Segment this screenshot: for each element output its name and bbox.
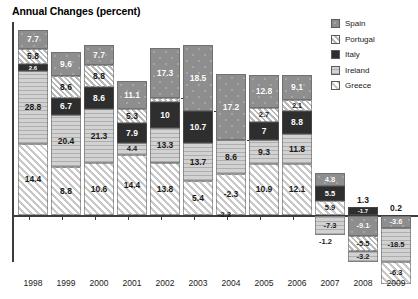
bar-segment-italy[interactable]: 2.6	[18, 64, 48, 71]
bar-segment-ireland[interactable]: 8.6	[216, 140, 246, 174]
bar-segment-portugal[interactable]: 8.6	[51, 76, 81, 98]
bar-segment-spain[interactable]: 9.1	[282, 75, 312, 100]
bar-segment-portugal-neg[interactable]: -5.5	[348, 236, 378, 251]
bar-segment-portugal[interactable]: 2.1	[282, 100, 312, 111]
bar-segment-ireland[interactable]: 21.3	[84, 109, 114, 163]
bar-segment-ireland[interactable]: 20.4	[51, 115, 81, 167]
bar-segment-italy[interactable]: 10.7	[183, 111, 213, 143]
bar-segment-spain[interactable]: 7.7	[84, 45, 114, 65]
bar-segment-spain[interactable]: 7.7	[18, 30, 48, 49]
bar-segment-greece[interactable]: 14.4	[117, 155, 147, 215]
bar-segment-greece[interactable]: 12.1	[282, 164, 312, 215]
bar-segment-greece[interactable]: 5.4	[183, 181, 213, 215]
bar-segment-ireland-neg[interactable]: -3.2	[348, 251, 378, 262]
bar-value-spain: 1.3	[357, 195, 369, 205]
x-axis-tick	[293, 215, 294, 220]
bar-segment-italy[interactable]: 8.6	[84, 87, 114, 109]
bar-segment-italy[interactable]: 5.5	[315, 186, 345, 201]
bar-segment-spain[interactable]: 18.5	[183, 45, 213, 111]
bar-column-2001[interactable]: 11.1 5.3 7.9 4.4 14.4	[117, 22, 147, 215]
bar-segment-spain[interactable]: 11.1	[117, 81, 147, 109]
bar-value-ireland: 28.8	[25, 103, 42, 112]
bar-segment-greece[interactable]: 10.6	[84, 163, 114, 215]
bar-segment-portugal[interactable]: 5.8	[18, 49, 48, 64]
x-axis-label-2004: 2004	[214, 278, 248, 288]
bar-segment-italy[interactable]: 7	[249, 122, 279, 140]
x-axis-label-2002: 2002	[148, 278, 182, 288]
bar-value-spain: 18.5	[190, 74, 207, 83]
bar-segment-greece[interactable]: 13.8	[150, 163, 180, 215]
bar-value-ireland: 13.7	[190, 158, 207, 167]
bar-column-2003[interactable]: 18.5 10.7 13.7 5.4	[183, 22, 213, 215]
bar-segment-ireland-neg[interactable]: -7.3	[315, 216, 345, 235]
bar-value-portugal: 2.1	[292, 102, 302, 109]
bar-column-2008[interactable]: -1.7 -9.1 -5.5 -3.2	[348, 22, 378, 215]
x-axis-label-2007: 2007	[313, 278, 347, 288]
bar-segment-italy[interactable]: 8.8	[282, 111, 312, 134]
x-axis-label-2001: 2001	[115, 278, 149, 288]
bar-value-greece: 14.4	[25, 175, 42, 184]
bar-column-2005[interactable]: 12.8 2.7 7 9.3 10.9	[249, 22, 279, 215]
bar-value-italy: 10.7	[190, 123, 207, 132]
bar-segment-italy[interactable]: 10	[150, 102, 180, 128]
bar-column-1999[interactable]: 9.6 8.6 6.7 20.4 8.8	[51, 22, 81, 215]
bar-value-italy: 8.8	[291, 118, 303, 127]
bar-segment-portugal[interactable]: 2.7	[249, 108, 279, 122]
bar-column-2004[interactable]: 17.2 8.6 -2.3	[216, 22, 246, 215]
bar-value-greece-top: 5.9	[325, 204, 335, 212]
bar-column-2000[interactable]: 7.7 8.8 8.6 21.3 10.6	[84, 22, 114, 215]
bar-value-ireland: 8.6	[225, 153, 237, 162]
x-axis-label-2005: 2005	[247, 278, 281, 288]
bar-value-ireland: 11.8	[289, 145, 305, 154]
bar-segment-spain[interactable]: 4.8	[315, 173, 345, 186]
bar-segment-greece[interactable]: 8.8	[51, 167, 81, 215]
bar-segment-spain[interactable]: 17.3	[150, 48, 180, 98]
bar-segment-spain-neg[interactable]: -9.1	[348, 216, 378, 236]
bar-segment-spain[interactable]: 9.6	[51, 52, 81, 76]
bar-segment-ireland[interactable]: 13.7	[183, 143, 213, 181]
x-axis-label-2003: 2003	[181, 278, 215, 288]
bar-value-ireland: 20.4	[58, 137, 75, 146]
bar-segment-italy[interactable]: 7.9	[117, 123, 147, 143]
bar-segment-italy[interactable]: 6.7	[51, 98, 81, 115]
bar-segment-spain[interactable]: 17.2	[216, 74, 246, 140]
bar-segment-italy-top[interactable]: -1.7	[348, 207, 378, 215]
bar-column-2007[interactable]: 4.8 5.5 5.9 -7.3	[315, 22, 345, 215]
bar-segment-ireland[interactable]: 4.4	[117, 143, 147, 155]
bar-segment-spain[interactable]: 12.8	[249, 75, 279, 108]
bar-callout-2009-spain: 0.2	[382, 203, 410, 213]
bar-column-2006[interactable]: 9.1 2.1 8.8 11.8 12.1	[282, 22, 312, 215]
x-axis-tick	[128, 215, 129, 220]
bar-value-greece: -3.2	[357, 253, 370, 261]
bar-column-2009[interactable]: -3.6 -18.5 -6.3	[381, 22, 411, 215]
bar-value-italy: 6.7	[60, 102, 72, 111]
bar-segment-greece[interactable]: 10.9	[249, 164, 279, 215]
bar-value-spain: 9.6	[60, 60, 72, 69]
bar-segment-portugal[interactable]: 8.8	[84, 65, 114, 87]
bar-segment-ireland[interactable]: 9.3	[249, 140, 279, 164]
bar-value-greece: -2.3	[224, 190, 239, 199]
bar-segment-italy-neg[interactable]: -18.5	[381, 228, 411, 262]
bar-value-italy: 10	[160, 111, 169, 120]
bar-segment-portugal[interactable]: 5.3	[117, 109, 147, 123]
bar-segment-greece[interactable]: 14.4	[18, 144, 48, 215]
bar-segment-ireland[interactable]: 11.8	[282, 134, 312, 164]
bar-callout-2008-spain: 1.3	[349, 195, 377, 205]
bar-segment-ireland[interactable]: 28.8	[18, 71, 48, 144]
bar-value-spain: 4.8	[325, 176, 335, 184]
bar-column-2002[interactable]: 17.3 10 13.3 13.8	[150, 22, 180, 215]
bar-value-italy-top: 5.5	[325, 190, 335, 198]
bar-segment-greece[interactable]: 5.9	[315, 201, 345, 215]
bar-value-portugal: 8.8	[93, 72, 105, 81]
bar-segment-ireland[interactable]: 13.3	[150, 128, 180, 163]
x-axis-labels: 1998 1999 2000 2001 2002 2003 2004 2005 …	[12, 278, 418, 292]
bar-value-ireland: -7.3	[324, 222, 337, 230]
bar-column-1998[interactable]: 7.7 5.8 2.6 28.8 14.4	[18, 22, 48, 215]
bar-segment-greece[interactable]: -2.3	[216, 174, 246, 215]
bar-value-portugal: 8.6	[60, 83, 72, 92]
bar-value-italy: 2.6	[29, 65, 37, 71]
bar-value-greece: 10.9	[256, 185, 273, 194]
bar-value-portugal: 2.7	[259, 111, 269, 119]
bar-segment-spain-neg[interactable]: -3.6	[381, 216, 411, 228]
bar-value-ireland: 13.3	[157, 141, 174, 150]
